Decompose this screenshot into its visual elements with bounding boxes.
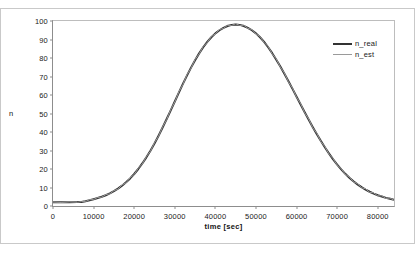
chart-legend: n_realn_est bbox=[333, 38, 377, 60]
x-axis-label: time [sec] bbox=[52, 222, 395, 231]
x-tick-mark bbox=[377, 206, 378, 209]
y-tick-mark bbox=[50, 95, 53, 96]
x-tick-label: 50000 bbox=[245, 212, 267, 221]
legend-swatch-icon bbox=[333, 43, 352, 45]
x-tick-mark bbox=[255, 206, 256, 209]
x-tick-mark bbox=[53, 206, 54, 209]
x-tick-mark bbox=[93, 206, 94, 209]
x-tick-label: 30000 bbox=[164, 212, 186, 221]
y-tick-label: 100 bbox=[35, 17, 48, 26]
x-tick-mark bbox=[337, 206, 338, 209]
x-tick-label: 40000 bbox=[204, 212, 226, 221]
y-tick-mark bbox=[50, 169, 53, 170]
y-tick-label: 40 bbox=[39, 128, 48, 137]
y-tick-mark bbox=[50, 76, 53, 77]
y-tick-label: 10 bbox=[39, 183, 48, 192]
y-tick-mark bbox=[50, 21, 53, 22]
x-tick-label: 10000 bbox=[83, 212, 105, 221]
y-tick-label: 20 bbox=[39, 165, 48, 174]
legend-item-n_est[interactable]: n_est bbox=[333, 49, 377, 60]
y-tick-mark bbox=[50, 187, 53, 188]
y-axis-label: n bbox=[9, 109, 13, 118]
y-tick-label: 80 bbox=[39, 54, 48, 63]
y-tick-label: 60 bbox=[39, 91, 48, 100]
y-tick-label: 90 bbox=[39, 35, 48, 44]
x-tick-label: 70000 bbox=[326, 212, 348, 221]
x-tick-label: 0 bbox=[51, 212, 55, 221]
legend-label: n_real bbox=[355, 39, 377, 48]
y-tick-mark bbox=[50, 39, 53, 40]
x-tick-label: 60000 bbox=[286, 212, 308, 221]
y-tick-mark bbox=[50, 132, 53, 133]
x-tick-mark bbox=[174, 206, 175, 209]
chart-figure: 0102030405060708090100 01000020000300004… bbox=[0, 0, 417, 253]
y-tick-label: 30 bbox=[39, 146, 48, 155]
x-tick-label: 80000 bbox=[367, 212, 389, 221]
legend-label: n_est bbox=[355, 50, 374, 59]
legend-swatch-icon bbox=[333, 54, 352, 55]
y-tick-mark bbox=[50, 113, 53, 114]
y-tick-label: 70 bbox=[39, 72, 48, 81]
y-tick-label: 0 bbox=[44, 202, 48, 211]
x-tick-mark bbox=[134, 206, 135, 209]
x-tick-mark bbox=[296, 206, 297, 209]
x-tick-label: 20000 bbox=[123, 212, 145, 221]
y-tick-mark bbox=[50, 150, 53, 151]
y-tick-label: 50 bbox=[39, 109, 48, 118]
y-tick-mark bbox=[50, 58, 53, 59]
x-tick-mark bbox=[215, 206, 216, 209]
legend-item-n_real[interactable]: n_real bbox=[333, 38, 377, 49]
